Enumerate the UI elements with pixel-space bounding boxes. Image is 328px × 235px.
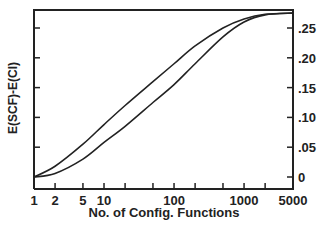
y-tick-label: .20	[298, 51, 316, 66]
y-tick-label: 0	[298, 170, 305, 185]
plot-frame	[34, 10, 293, 189]
upper-curve	[34, 13, 293, 177]
y-tick-label: .10	[298, 110, 316, 125]
x-tick-label: 1	[30, 193, 37, 208]
x-tick-label: 2	[51, 193, 58, 208]
chart: 1251010010005000 0.05.10.15.20.25 No. of…	[0, 0, 328, 235]
axes-box	[34, 10, 293, 189]
x-tick-label: 5000	[279, 193, 308, 208]
y-axis-label: E(SCF)-E(CI)	[6, 62, 20, 134]
y-tick-label: .25	[298, 21, 316, 36]
y-axis-ticks: 0.05.10.15.20.25	[34, 21, 316, 185]
x-tick-label: 5	[79, 193, 86, 208]
y-tick-label: .05	[298, 140, 316, 155]
x-axis-label: No. of Config. Functions	[89, 205, 240, 220]
y-tick-label: .15	[298, 81, 316, 96]
curves	[34, 13, 293, 177]
